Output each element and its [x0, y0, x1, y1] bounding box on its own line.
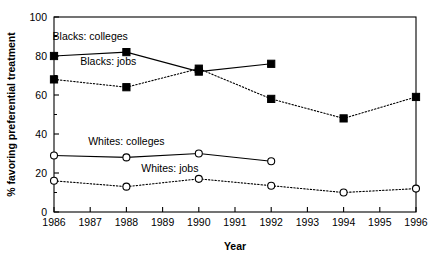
series-lines — [54, 52, 416, 192]
series-line — [54, 154, 271, 162]
data-point-marker — [268, 158, 275, 165]
x-tick-label: 1988 — [115, 216, 139, 228]
series-inline-label: Blacks: jobs — [80, 55, 136, 67]
line-chart: 020406080100 198619871988198919901991199… — [0, 0, 429, 262]
x-tick-label: 1990 — [187, 216, 211, 228]
series-line — [54, 179, 416, 193]
series-markers — [50, 49, 419, 197]
data-point-marker — [268, 182, 275, 189]
data-point-marker — [50, 52, 57, 59]
data-point-marker — [268, 60, 275, 67]
data-point-marker — [50, 76, 57, 83]
data-point-marker — [51, 152, 58, 159]
data-point-marker — [413, 185, 420, 192]
y-axis-title: % favoring preferential treatment — [5, 32, 17, 197]
x-tick-label: 1991 — [223, 216, 247, 228]
data-point-marker — [123, 154, 130, 161]
series-inline-label: Whites: colleges — [88, 135, 164, 147]
x-axis-ticks: 1986198719881989199019911992199319941995… — [42, 207, 428, 228]
x-tick-label: 1993 — [296, 216, 320, 228]
x-tick-label: 1986 — [42, 216, 66, 228]
data-point-marker — [195, 65, 202, 72]
data-point-marker — [268, 95, 275, 102]
data-point-marker — [51, 177, 58, 184]
y-tick-label: 60 — [35, 89, 47, 101]
series-inline-label: Blacks: colleges — [53, 30, 128, 42]
data-point-marker — [195, 150, 202, 157]
data-point-marker — [123, 84, 130, 91]
y-tick-label: 80 — [35, 50, 47, 62]
series-inline-label: Whites: jobs — [141, 162, 198, 174]
x-tick-label: 1996 — [404, 216, 428, 228]
x-tick-label: 1995 — [368, 216, 392, 228]
x-axis-title: Year — [224, 240, 246, 252]
data-point-marker — [195, 175, 202, 182]
data-point-marker — [340, 189, 347, 196]
y-tick-label: 40 — [35, 128, 47, 140]
data-point-marker — [123, 183, 130, 190]
series-line — [54, 69, 416, 119]
x-tick-label: 1994 — [332, 216, 356, 228]
y-tick-label: 20 — [35, 167, 47, 179]
chart-container: 020406080100 198619871988198919901991199… — [0, 0, 429, 262]
data-point-marker — [412, 93, 419, 100]
y-tick-label: 100 — [29, 11, 47, 23]
x-tick-label: 1992 — [260, 216, 284, 228]
x-tick-label: 1987 — [79, 216, 103, 228]
data-point-marker — [340, 115, 347, 122]
x-tick-label: 1989 — [151, 216, 175, 228]
